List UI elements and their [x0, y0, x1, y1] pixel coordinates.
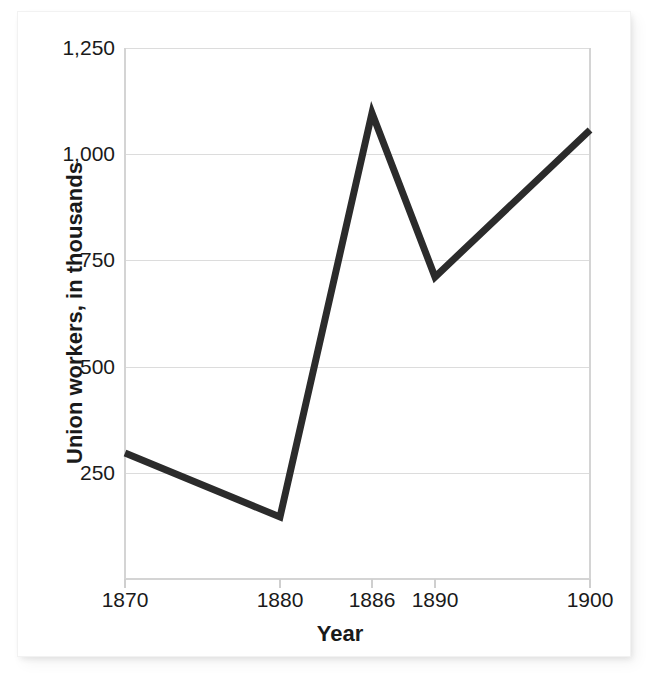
y-axis-title: Union workers, in thousands	[62, 162, 87, 464]
y-tick-label-1000: 1,000	[62, 142, 115, 165]
x-tick-label-1890: 1890	[412, 588, 459, 611]
y-tick-label-1250: 1,250	[62, 36, 115, 59]
gridlines	[125, 48, 590, 473]
x-tick-labels: 1870 1880 1886 1890 1900	[102, 588, 614, 611]
x-tick-label-1900: 1900	[567, 588, 614, 611]
x-tick-label-1880: 1880	[257, 588, 304, 611]
line-chart: 1,250 1,000 750 500 250 1870 1880 1886 1…	[0, 0, 667, 693]
x-tick-label-1870: 1870	[102, 588, 149, 611]
x-tick-label-1886: 1886	[349, 588, 396, 611]
figure-page: 1,250 1,000 750 500 250 1870 1880 1886 1…	[0, 0, 667, 693]
axis-spines	[125, 48, 590, 579]
x-tickmarks	[125, 579, 590, 588]
x-axis-title: Year	[317, 621, 364, 646]
chart-svg: 1,250 1,000 750 500 250 1870 1880 1886 1…	[0, 0, 667, 693]
data-series-union-workers	[125, 113, 590, 517]
